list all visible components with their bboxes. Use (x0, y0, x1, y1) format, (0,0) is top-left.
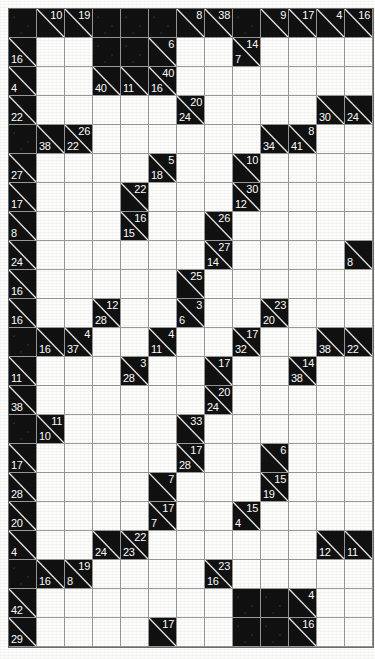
entry-cell[interactable] (65, 96, 93, 125)
entry-cell[interactable] (93, 386, 121, 415)
entry-cell[interactable] (233, 212, 261, 241)
entry-cell[interactable] (289, 299, 317, 328)
entry-cell[interactable] (261, 183, 289, 212)
entry-cell[interactable] (289, 270, 317, 299)
entry-cell[interactable] (261, 386, 289, 415)
entry-cell[interactable] (205, 473, 233, 502)
entry-cell[interactable] (317, 299, 345, 328)
entry-cell[interactable] (289, 154, 317, 183)
entry-cell[interactable] (65, 444, 93, 473)
entry-cell[interactable] (317, 125, 345, 154)
entry-cell[interactable] (65, 154, 93, 183)
entry-cell[interactable] (233, 386, 261, 415)
entry-cell[interactable] (121, 415, 149, 444)
entry-cell[interactable] (121, 560, 149, 589)
entry-cell[interactable] (317, 618, 345, 647)
entry-cell[interactable] (65, 502, 93, 531)
entry-cell[interactable] (317, 212, 345, 241)
entry-cell[interactable] (317, 154, 345, 183)
entry-cell[interactable] (37, 531, 65, 560)
entry-cell[interactable] (345, 212, 373, 241)
entry-cell[interactable] (289, 386, 317, 415)
entry-cell[interactable] (233, 96, 261, 125)
entry-cell[interactable] (261, 67, 289, 96)
entry-cell[interactable] (149, 589, 177, 618)
entry-cell[interactable] (37, 386, 65, 415)
entry-cell[interactable] (149, 357, 177, 386)
entry-cell[interactable] (65, 386, 93, 415)
entry-cell[interactable] (289, 444, 317, 473)
entry-cell[interactable] (205, 444, 233, 473)
entry-cell[interactable] (149, 212, 177, 241)
entry-cell[interactable] (233, 125, 261, 154)
entry-cell[interactable] (233, 415, 261, 444)
entry-cell[interactable] (149, 531, 177, 560)
entry-cell[interactable] (177, 531, 205, 560)
entry-cell[interactable] (205, 299, 233, 328)
entry-cell[interactable] (149, 241, 177, 270)
entry-cell[interactable] (121, 502, 149, 531)
entry-cell[interactable] (317, 67, 345, 96)
entry-cell[interactable] (37, 96, 65, 125)
entry-cell[interactable] (261, 328, 289, 357)
entry-cell[interactable] (149, 125, 177, 154)
entry-cell[interactable] (177, 67, 205, 96)
entry-cell[interactable] (233, 67, 261, 96)
entry-cell[interactable] (93, 241, 121, 270)
entry-cell[interactable] (261, 357, 289, 386)
entry-cell[interactable] (93, 502, 121, 531)
entry-cell[interactable] (289, 38, 317, 67)
entry-cell[interactable] (205, 183, 233, 212)
entry-cell[interactable] (317, 415, 345, 444)
entry-cell[interactable] (37, 618, 65, 647)
entry-cell[interactable] (345, 125, 373, 154)
entry-cell[interactable] (37, 502, 65, 531)
entry-cell[interactable] (345, 502, 373, 531)
entry-cell[interactable] (93, 125, 121, 154)
entry-cell[interactable] (149, 560, 177, 589)
entry-cell[interactable] (93, 212, 121, 241)
entry-cell[interactable] (149, 270, 177, 299)
entry-cell[interactable] (261, 560, 289, 589)
entry-cell[interactable] (317, 183, 345, 212)
entry-cell[interactable] (289, 67, 317, 96)
entry-cell[interactable] (261, 96, 289, 125)
entry-cell[interactable] (233, 473, 261, 502)
entry-cell[interactable] (65, 38, 93, 67)
entry-cell[interactable] (177, 502, 205, 531)
entry-cell[interactable] (93, 154, 121, 183)
entry-cell[interactable] (261, 154, 289, 183)
entry-cell[interactable] (93, 270, 121, 299)
entry-cell[interactable] (37, 38, 65, 67)
entry-cell[interactable] (205, 96, 233, 125)
entry-cell[interactable] (121, 125, 149, 154)
entry-cell[interactable] (177, 589, 205, 618)
entry-cell[interactable] (65, 241, 93, 270)
entry-cell[interactable] (121, 154, 149, 183)
entry-cell[interactable] (289, 502, 317, 531)
entry-cell[interactable] (65, 531, 93, 560)
entry-cell[interactable] (289, 241, 317, 270)
entry-cell[interactable] (345, 357, 373, 386)
entry-cell[interactable] (93, 444, 121, 473)
entry-cell[interactable] (37, 357, 65, 386)
entry-cell[interactable] (93, 96, 121, 125)
entry-cell[interactable] (233, 357, 261, 386)
entry-cell[interactable] (345, 154, 373, 183)
entry-cell[interactable] (233, 299, 261, 328)
entry-cell[interactable] (37, 270, 65, 299)
entry-cell[interactable] (205, 502, 233, 531)
entry-cell[interactable] (121, 473, 149, 502)
entry-cell[interactable] (37, 67, 65, 96)
entry-cell[interactable] (317, 502, 345, 531)
entry-cell[interactable] (289, 415, 317, 444)
entry-cell[interactable] (65, 473, 93, 502)
entry-cell[interactable] (233, 241, 261, 270)
entry-cell[interactable] (65, 212, 93, 241)
entry-cell[interactable] (93, 357, 121, 386)
entry-cell[interactable] (233, 444, 261, 473)
entry-cell[interactable] (345, 415, 373, 444)
entry-cell[interactable] (345, 183, 373, 212)
entry-cell[interactable] (177, 154, 205, 183)
entry-cell[interactable] (177, 386, 205, 415)
